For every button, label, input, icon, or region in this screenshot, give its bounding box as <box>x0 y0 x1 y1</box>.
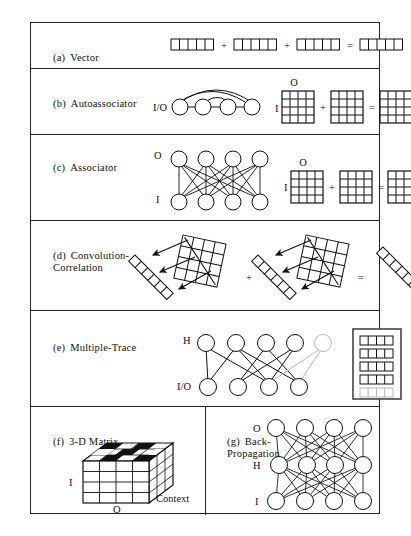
panel-c-associator: (c)Associator O I O I + <box>31 135 379 221</box>
trace-row-2 <box>360 349 393 358</box>
matrix-row-label-i-c: I <box>284 182 288 193</box>
panel-c-graphic: O I O I + <box>31 135 381 221</box>
matrix-1-c <box>291 171 323 203</box>
trace-node-top-faded <box>315 335 332 352</box>
trace-nodes-bottom <box>200 379 308 396</box>
matrix-2-c <box>340 171 372 203</box>
trace-row-4 <box>360 375 393 384</box>
panel-e-graphic: H I/O <box>31 311 381 407</box>
panel-bottom-row: (f)3-D Matrix <box>31 407 379 515</box>
label-i-g: I <box>255 496 259 507</box>
trace-edges-faded <box>269 347 323 383</box>
panel-b-autoassociator: (b)Autoassociator I/O O I <box>31 69 379 135</box>
panel-d-graphic: + <box>31 221 381 311</box>
operator-equals-b: = <box>369 102 375 113</box>
label-h-g: H <box>253 460 261 471</box>
operator-equals: = <box>347 40 353 51</box>
operator-equals-c: = <box>378 182 384 193</box>
vector-result <box>360 39 403 50</box>
label-i-bottom: I <box>156 194 160 205</box>
operator-plus-d: + <box>246 272 252 283</box>
matrix-3-c <box>388 171 411 203</box>
cube-axis-left-label: I <box>69 477 73 488</box>
trace-edges <box>206 347 299 383</box>
trace-stack <box>353 329 401 399</box>
matrix-row-label-i: I <box>275 103 279 114</box>
associator-edges <box>179 163 260 199</box>
operator-plus-b: + <box>320 102 326 113</box>
trace-row-5-faded <box>360 388 393 397</box>
convolution-term-2 <box>252 235 349 300</box>
operator-plus-1: + <box>221 40 227 51</box>
label-o-top: O <box>154 150 162 161</box>
panel-e-multiple-trace: (e)Multiple-Trace H I/O <box>31 311 379 407</box>
autoassociator-arcs <box>179 90 253 107</box>
panel-d-convolution: (d)Convolution- Correlation <box>31 221 379 311</box>
trace-nodes-top <box>198 335 304 352</box>
trace-row-1 <box>360 336 393 345</box>
matrix-3 <box>380 91 411 123</box>
label-io: I/O <box>153 102 167 113</box>
panel-a-graphic: + + = <box>31 23 381 69</box>
panel-b-graphic: I/O O I <box>31 69 381 135</box>
figure-frame: (a)Vector + + <box>30 22 380 514</box>
backprop-nodes-i <box>268 493 372 510</box>
matrix-2 <box>331 91 363 123</box>
matrix-col-label-o: O <box>290 77 298 88</box>
panel-f-graphic: I O Context O H I <box>31 407 381 515</box>
vector-term-2 <box>234 39 277 50</box>
panel-a-vector: (a)Vector + + <box>31 23 379 69</box>
cube-axis-right-label: Context <box>156 493 189 504</box>
matrix-1 <box>282 91 314 123</box>
trace-row-3 <box>360 362 393 371</box>
label-io-e: I/O <box>177 381 191 392</box>
vector-term-3 <box>297 39 340 50</box>
operator-equals-d: = <box>358 272 364 283</box>
associator-nodes-top <box>171 151 268 167</box>
conv-result-vector <box>377 247 411 292</box>
operator-plus-c: + <box>329 182 335 193</box>
panel-g-tag: (g) <box>227 436 240 447</box>
label-h: H <box>183 335 191 346</box>
vector-term-1 <box>171 39 214 50</box>
operator-plus-2: + <box>284 40 290 51</box>
cube-axis-bottom-label: O <box>113 504 121 515</box>
convolution-term-1 <box>129 235 226 300</box>
matrix-col-label-o-c: O <box>299 157 307 168</box>
backprop-edges-bottom <box>276 465 363 501</box>
conv-vector-1 <box>129 255 174 300</box>
conv-vector-2 <box>252 255 297 300</box>
